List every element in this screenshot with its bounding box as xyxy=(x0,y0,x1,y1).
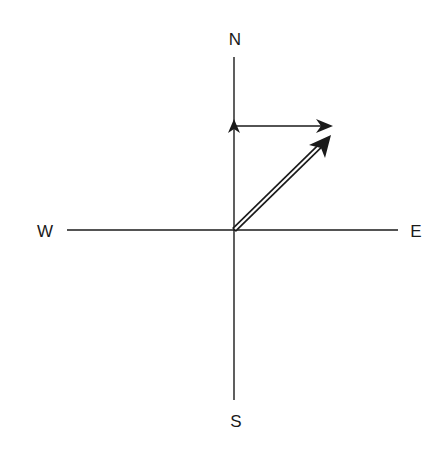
resultant-vector-arrow xyxy=(234,135,331,230)
north-label: N xyxy=(229,31,241,48)
east-component-arrow xyxy=(234,119,333,133)
west-label: W xyxy=(37,223,53,240)
east-label: E xyxy=(410,223,421,240)
diagram-canvas xyxy=(0,0,448,453)
compass-vector-diagram: N W E S xyxy=(0,0,448,453)
south-label: S xyxy=(230,413,241,430)
